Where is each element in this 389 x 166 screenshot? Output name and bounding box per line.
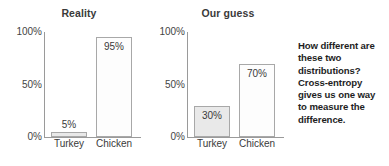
chart-our-guess-title: Our guess: [153, 7, 303, 19]
chart-our-guess-bar-turkey-value: 30%: [195, 111, 229, 121]
chart-reality-title: Reality: [4, 7, 154, 19]
figure-cross-entropy: Reality 100% 50% 0% 5% 95% Turkey Chicke…: [0, 0, 389, 166]
chart-our-guess-ytick-50: 50%: [165, 80, 185, 90]
chart-reality-ytick-100: 100%: [16, 27, 42, 37]
chart-our-guess-xlabel-chicken: Chicken: [227, 139, 287, 149]
chart-our-guess-plot-area: 100% 50% 0% 30% 70% Turkey Chicken: [187, 32, 284, 138]
chart-our-guess-bar-turkey: 30%: [194, 106, 230, 138]
figure-caption: How different are these two distribution…: [298, 40, 384, 126]
chart-reality-bar-turkey: 5%: [51, 132, 87, 137]
chart-reality-bar-chicken-value: 95%: [97, 42, 131, 52]
chart-reality-bar-turkey-value: 5%: [52, 120, 86, 130]
chart-reality-ytick-50: 50%: [22, 80, 42, 90]
chart-reality-xlabel-chicken: Chicken: [84, 139, 144, 149]
chart-reality: Reality 100% 50% 0% 5% 95% Turkey Chicke…: [0, 0, 150, 166]
chart-our-guess-ytick-100: 100%: [159, 27, 185, 37]
chart-our-guess-bar-chicken-value: 70%: [240, 69, 274, 79]
chart-our-guess-bar-chicken: 70%: [239, 64, 275, 138]
chart-reality-bar-chicken: 95%: [96, 37, 132, 137]
chart-our-guess: Our guess 100% 50% 0% 30% 70% Turkey Chi…: [143, 0, 293, 166]
chart-reality-plot-area: 100% 50% 0% 5% 95% Turkey Chicken: [44, 32, 141, 138]
